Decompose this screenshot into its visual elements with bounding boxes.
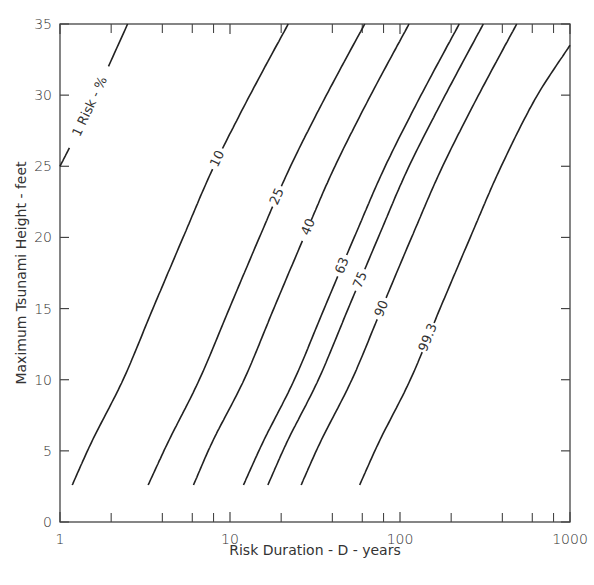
y-tick-label: 30 xyxy=(34,87,52,103)
curve-label-75: 75 xyxy=(350,269,370,290)
risk-curve-75 xyxy=(268,291,356,485)
plot-frame xyxy=(60,24,570,522)
y-tick-label: 0 xyxy=(43,514,52,530)
risk-curve-63 xyxy=(347,24,460,255)
curve-label-1: 1 Risk - % xyxy=(69,74,110,139)
risk-curve-40 xyxy=(194,241,303,485)
y-tick-label: 15 xyxy=(34,301,52,317)
risk-curve-25 xyxy=(148,207,273,485)
risk-curve-99-3 xyxy=(360,352,423,485)
risk-curve-25 xyxy=(281,24,364,186)
curve-label-10: 10 xyxy=(207,148,228,169)
risk-curve-10 xyxy=(223,24,289,149)
risk-curve-90 xyxy=(301,319,377,485)
curve-label-99-3: 99.3 xyxy=(415,321,440,353)
y-tick-label: 10 xyxy=(34,372,52,388)
curve-label-40: 40 xyxy=(298,216,318,237)
y-axis-title: Maximum Tsunami Height - feet xyxy=(13,161,29,385)
curve-label-25: 25 xyxy=(266,186,286,207)
y-tick-label: 5 xyxy=(43,443,52,459)
risk-curve-90 xyxy=(386,24,517,298)
curve-label-90: 90 xyxy=(371,298,391,319)
y-tick-label: 25 xyxy=(34,158,52,174)
y-tick-label: 20 xyxy=(34,229,52,245)
risk-curve-75 xyxy=(365,24,484,269)
risk-curve-1 xyxy=(60,148,69,167)
risk-curves xyxy=(60,24,570,485)
curve-label-63: 63 xyxy=(332,255,352,276)
plot-border xyxy=(60,24,570,522)
axis-ticks: 110100100005101520253035 xyxy=(34,16,588,547)
x-tick-label: 1 xyxy=(56,531,65,547)
x-tick-label: 1000 xyxy=(552,531,588,547)
curve-labels: 1 Risk - %10254063759099.3 xyxy=(69,74,440,354)
risk-curve-40 xyxy=(311,24,409,220)
risk-curve-63 xyxy=(244,276,338,485)
y-tick-label: 35 xyxy=(34,16,52,32)
risk-curve-99-3 xyxy=(434,45,570,323)
tsunami-risk-chart: 110100100005101520253035 1 Risk - %10254… xyxy=(0,0,594,585)
risk-curve-10 xyxy=(72,169,212,485)
x-axis-title: Risk Duration - D - years xyxy=(229,542,401,558)
